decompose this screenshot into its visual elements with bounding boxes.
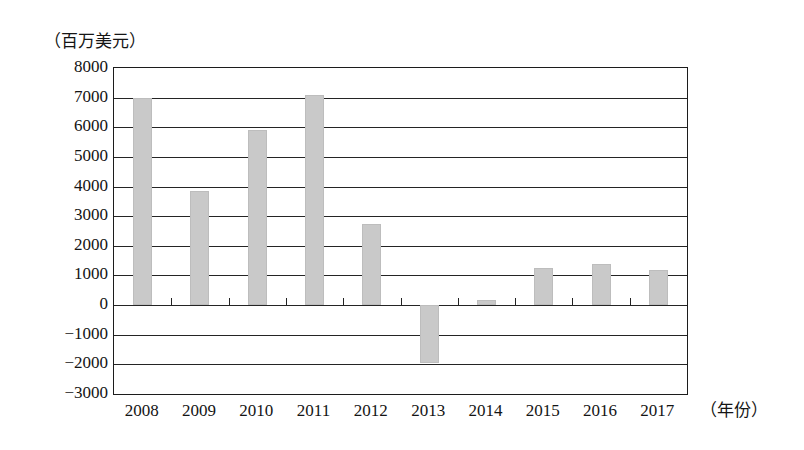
y-axis-tick-label: −1000 (36, 325, 108, 342)
gridline (114, 98, 687, 99)
y-axis-tick-label: 7000 (36, 88, 108, 105)
x-axis-tick-label: 2010 (228, 400, 285, 422)
plot-area (113, 67, 688, 395)
bar-2017 (649, 270, 668, 306)
x-axis-tick-mark (458, 298, 459, 305)
bar-2011 (305, 95, 324, 305)
bar-2014 (477, 300, 496, 305)
x-axis-tick-mark (343, 298, 344, 305)
y-axis-tick-label: 4000 (36, 177, 108, 194)
x-axis-tick-mark (401, 298, 402, 305)
x-axis-tick-mark (171, 298, 172, 305)
x-axis-tick-mark (515, 298, 516, 305)
x-axis-tick-mark (630, 298, 631, 305)
x-axis-tick-label: 2008 (113, 400, 170, 422)
bar-2008 (133, 98, 152, 305)
y-axis-tick-label: 0 (36, 295, 108, 312)
y-axis-tick-label: 3000 (36, 206, 108, 223)
x-axis-tick-labels: 2008200920102011201220132014201520162017 (113, 400, 688, 426)
y-axis-tick-label: 2000 (36, 236, 108, 253)
y-axis-tick-label: −2000 (36, 354, 108, 371)
bar-2010 (248, 130, 267, 305)
y-axis-tick-label: 5000 (36, 147, 108, 164)
x-axis-tick-mark (572, 298, 573, 305)
x-axis-tick-label: 2016 (571, 400, 628, 422)
bar-2009 (190, 191, 209, 305)
gridline (114, 187, 687, 188)
bar-2015 (534, 268, 553, 305)
y-axis-tick-labels: 800070006000500040003000200010000−1000−2… (33, 67, 108, 395)
x-axis-unit-label: （年份） (700, 400, 768, 422)
bar-2013 (420, 305, 439, 363)
x-axis-tick-mark (229, 298, 230, 305)
bar-2016 (592, 264, 611, 305)
x-axis-tick-label: 2011 (285, 400, 342, 422)
x-axis-tick-label: 2013 (400, 400, 457, 422)
x-axis-tick-mark (286, 298, 287, 305)
y-axis-tick-label: 1000 (36, 265, 108, 282)
bar-chart: （百万美元） 800070006000500040003000200010000… (0, 0, 804, 450)
gridline (114, 157, 687, 158)
y-axis-unit-label: （百万美元） (44, 27, 146, 52)
y-axis-tick-label: −3000 (36, 384, 108, 401)
gridline (114, 127, 687, 128)
y-axis-tick-label: 8000 (36, 58, 108, 75)
gridline (114, 364, 687, 365)
bar-2012 (362, 224, 381, 306)
x-axis-tick-label: 2009 (170, 400, 227, 422)
y-axis-tick-label: 6000 (36, 117, 108, 134)
x-axis-tick-label: 2017 (629, 400, 686, 422)
x-axis-tick-label: 2014 (457, 400, 514, 422)
gridline (114, 335, 687, 336)
x-axis-tick-label: 2015 (514, 400, 571, 422)
x-axis-tick-label: 2012 (342, 400, 399, 422)
gridline (114, 305, 687, 306)
